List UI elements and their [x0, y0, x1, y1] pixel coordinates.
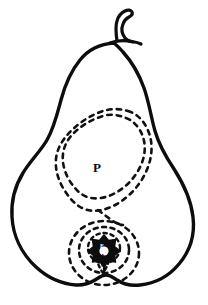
pericarp-label: P — [93, 161, 101, 174]
figure-canvas: P E A W — [0, 0, 208, 305]
core-lower-label-a: A — [100, 253, 105, 260]
core-center-label: E — [100, 243, 104, 249]
stem-group — [110, 10, 141, 44]
core-lower-label-b: W — [100, 262, 107, 269]
stem-icon — [116, 10, 133, 42]
